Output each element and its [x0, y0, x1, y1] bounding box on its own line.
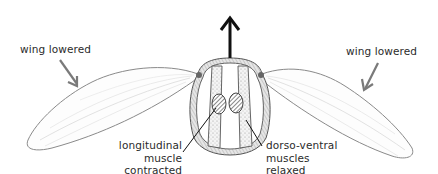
- left-wing-hinge: [196, 72, 202, 78]
- left-wing-down-arrow: [60, 60, 77, 86]
- flight-mechanism-diagram: [0, 0, 438, 174]
- longitudinal-muscle-label: longitudinal muscle contracted: [116, 139, 182, 174]
- dorso-ventral-muscle-label: dorso-ventral muscles relaxed: [266, 139, 337, 174]
- dorso-label-line-2: muscles: [266, 152, 337, 165]
- right-wing-label-text: wing lowered: [346, 45, 417, 58]
- dorso-label-line-3: relaxed: [266, 164, 337, 174]
- longitudinal-muscle-right: [229, 93, 243, 113]
- left-wing-label-text: wing lowered: [20, 43, 91, 56]
- longitudinal-label-line-3: contracted: [116, 164, 182, 174]
- left-wing: [27, 68, 198, 150]
- dorso-label-line-1: dorso-ventral: [266, 139, 337, 152]
- right-wing-hinge: [258, 72, 264, 78]
- right-wing-down-arrow: [362, 63, 378, 90]
- right-wing-label: wing lowered: [346, 45, 417, 58]
- longitudinal-label-line-2: muscle: [116, 152, 182, 165]
- longitudinal-label-line-1: longitudinal: [116, 139, 182, 152]
- left-wing-label: wing lowered: [20, 43, 91, 56]
- thorax-upward-arrow: [221, 18, 239, 58]
